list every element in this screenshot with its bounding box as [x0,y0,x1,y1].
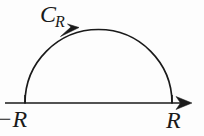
contour-label-base: C [40,1,56,27]
semicircle-arc [25,29,172,103]
left-endpoint-symbol: R [13,106,28,132]
right-endpoint-label: R [166,108,181,132]
contour-label: CR [40,2,65,30]
contour-label-subscript: R [55,13,65,30]
left-endpoint-label: −R [0,107,27,131]
contour-figure: CR −R R [0,0,204,136]
minus-sign-icon: − [0,106,12,132]
